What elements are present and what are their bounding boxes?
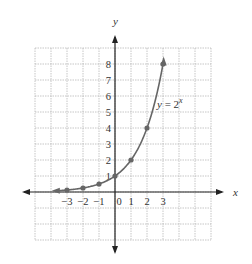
x-axis-arrow-left-icon: [22, 189, 30, 195]
data-point: [96, 181, 101, 186]
x-axis-label: x: [232, 186, 238, 198]
y-tick-label: 2: [106, 155, 111, 166]
data-point: [80, 185, 85, 190]
x-axis-arrow-right-icon: [216, 189, 224, 195]
x-tick-label: −1: [93, 196, 104, 207]
grid: [35, 48, 211, 240]
exponential-graph: −3−2−1012312345678 y x y = 2x: [0, 0, 252, 264]
data-point: [64, 187, 69, 192]
y-axis-arrow-down-icon: [112, 246, 118, 254]
equation-label: y = 2x: [156, 96, 183, 110]
y-tick-label: 3: [106, 139, 111, 150]
axes: [22, 35, 224, 254]
x-tick-label: 1: [128, 196, 133, 207]
x-tick-label: 3: [160, 196, 165, 207]
x-tick-label: 0: [116, 196, 121, 207]
x-tick-label: −3: [61, 196, 72, 207]
data-point: [160, 61, 165, 66]
y-tick-label: 7: [106, 75, 111, 86]
y-tick-label: 4: [106, 123, 112, 134]
data-point: [112, 173, 117, 178]
y-tick-label: 6: [106, 91, 111, 102]
tick-labels: −3−2−1012312345678: [61, 59, 165, 207]
y-tick-label: 8: [106, 59, 111, 70]
data-point: [128, 157, 133, 162]
x-tick-label: −2: [77, 196, 88, 207]
y-axis-label: y: [112, 15, 118, 27]
data-point: [144, 125, 149, 130]
y-tick-label: 5: [106, 107, 111, 118]
curve-arrow-left-icon: [52, 188, 60, 194]
y-axis-arrow-up-icon: [112, 35, 118, 43]
x-tick-label: 2: [144, 196, 149, 207]
